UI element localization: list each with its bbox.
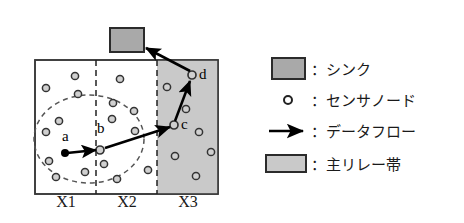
sensor-node bbox=[71, 72, 78, 79]
zone-label-layer: X1X2X3 bbox=[56, 193, 198, 210]
legend-item-sensor-node: ： センサノード bbox=[284, 92, 416, 110]
sensor-node-b bbox=[96, 146, 104, 154]
network-topology-figure: abcd X1X2X3 ： シンク ： センサノード ： データフロー ： 主リ… bbox=[0, 0, 464, 223]
legend-sep-2: ： bbox=[311, 92, 326, 110]
sensor-node-swatch bbox=[284, 96, 292, 104]
legend-label-relay-band: 主リレー帯 bbox=[326, 156, 401, 174]
legend-sep-1: ： bbox=[311, 61, 326, 79]
legend: ： シンク ： センサノード ： データフロー ： 主リレー帯 bbox=[266, 58, 416, 174]
sensor-node bbox=[42, 128, 49, 135]
sensor-node bbox=[207, 148, 214, 155]
sensor-node bbox=[182, 105, 189, 112]
legend-item-relay-band: ： 主リレー帯 bbox=[266, 155, 401, 174]
relay-band-swatch bbox=[266, 155, 306, 172]
legend-label-sensor-node: センサノード bbox=[326, 92, 416, 110]
sensor-node bbox=[131, 127, 138, 134]
sensor-node-c bbox=[170, 121, 178, 129]
sensor-node bbox=[163, 83, 170, 90]
sensor-node bbox=[42, 84, 49, 91]
zone-label-x3: X3 bbox=[178, 193, 198, 210]
sensor-node-d bbox=[188, 71, 196, 79]
node-label-d: d bbox=[199, 66, 207, 82]
sensor-node bbox=[144, 166, 151, 173]
node-label-c: c bbox=[181, 116, 188, 132]
sensor-node bbox=[52, 173, 59, 180]
sensor-node bbox=[108, 115, 115, 122]
zone-label-x2: X2 bbox=[117, 193, 137, 210]
sensor-node bbox=[192, 172, 199, 179]
sensor-node bbox=[116, 75, 123, 82]
legend-label-sink: シンク bbox=[326, 61, 371, 79]
sensor-node bbox=[195, 128, 202, 135]
sensor-node bbox=[171, 152, 178, 159]
sensor-node bbox=[81, 168, 88, 175]
sensor-node bbox=[113, 175, 120, 182]
legend-sep-4: ： bbox=[311, 156, 326, 174]
legend-item-sink: ： シンク bbox=[272, 58, 371, 79]
node-label-b: b bbox=[97, 120, 105, 136]
legend-sep-3: ： bbox=[311, 123, 326, 141]
sensor-node bbox=[130, 107, 137, 114]
zone-label-x1: X1 bbox=[56, 193, 76, 210]
legend-item-data-flow: ： データフロー bbox=[269, 123, 416, 141]
sensor-node bbox=[74, 90, 81, 97]
sensing-field bbox=[35, 60, 218, 194]
node-label-a: a bbox=[62, 128, 69, 144]
sink-node bbox=[110, 28, 144, 52]
sensor-node bbox=[55, 117, 62, 124]
sink-swatch bbox=[272, 58, 305, 79]
sensor-node bbox=[100, 160, 107, 167]
sensor-node bbox=[45, 157, 52, 164]
sensor-node bbox=[109, 99, 116, 106]
legend-label-data-flow: データフロー bbox=[326, 123, 416, 141]
